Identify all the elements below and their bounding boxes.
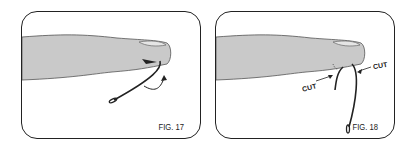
figure-17-panel: FIG. 17 xyxy=(21,11,201,139)
finger-hook-illustration xyxy=(22,12,201,139)
figure-label: FIG. 17 xyxy=(158,122,184,132)
figure-label: FIG. 18 xyxy=(352,122,378,132)
figure-18-panel: CUT CUT FIG. 18 xyxy=(215,11,395,139)
finger-hook-cut-illustration xyxy=(216,12,395,139)
